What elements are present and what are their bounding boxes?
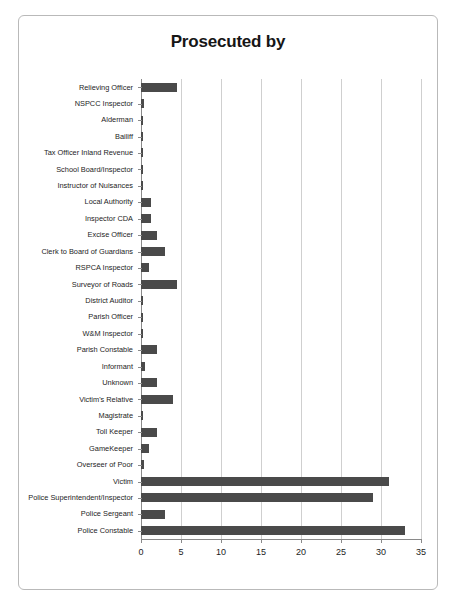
bar[interactable] [141,493,373,502]
x-tick-label: 15 [256,547,266,557]
bar[interactable] [141,444,149,453]
bar-row[interactable] [141,424,421,440]
bar-row[interactable] [141,342,421,358]
bar-row[interactable] [141,112,421,128]
bar[interactable] [141,280,177,289]
category-tick [138,169,142,170]
category-label: Surveyor of Roads [21,276,137,292]
category-label: Local Authority [21,194,137,210]
bar[interactable] [141,231,157,240]
x-tick-mark [181,539,182,543]
category-label: District Auditor [21,292,137,308]
bar[interactable] [141,395,173,404]
category-label: Instructor of Nuisances [21,178,137,194]
bar[interactable] [141,378,157,387]
category-label: Parish Officer [21,309,137,325]
category-label: Parish Constable [21,342,137,358]
bar-row[interactable] [141,490,421,506]
category-label: Victim's Relative [21,391,137,407]
bar-row[interactable] [141,128,421,144]
category-tick [138,383,142,384]
x-tick-label: 5 [178,547,183,557]
category-axis-labels: Relieving OfficerNSPCC InspectorAlderman… [21,79,137,539]
x-axis-tick-labels: 05101520253035 [141,547,422,561]
category-tick [138,284,142,285]
chart-frame: Prosecuted by Relieving OfficerNSPCC Ins… [18,15,438,590]
bar-row[interactable] [141,457,421,473]
x-tick-mark [381,539,382,543]
bar[interactable] [141,477,389,486]
bar-row[interactable] [141,309,421,325]
x-axis-line [141,539,422,540]
category-label: NSPCC Inspector [21,95,137,111]
bar-row[interactable] [141,227,421,243]
bar-row[interactable] [141,391,421,407]
bar-row[interactable] [141,145,421,161]
category-tick [138,87,142,88]
bar[interactable] [141,526,405,535]
bar-row[interactable] [141,358,421,374]
bar-row[interactable] [141,194,421,210]
category-tick [138,498,142,499]
category-label: GameKeeper [21,440,137,456]
category-tick [138,334,142,335]
category-label: Excise Officer [21,227,137,243]
x-tick-label: 10 [216,547,226,557]
bar-row[interactable] [141,243,421,259]
bar-row[interactable] [141,473,421,489]
plot-area [141,79,421,539]
bar-row[interactable] [141,375,421,391]
category-label: Police Sergeant [21,506,137,522]
bar-row[interactable] [141,440,421,456]
category-label: Tax Officer Inland Revenue [21,145,137,161]
category-tick [138,449,142,450]
category-tick [138,120,142,121]
bar-row[interactable] [141,292,421,308]
x-tick-mark [221,539,222,543]
bar-row[interactable] [141,506,421,522]
category-tick [138,482,142,483]
category-label: Magistrate [21,407,137,423]
category-label: Police Constable [21,522,137,538]
bar[interactable] [141,247,165,256]
bar[interactable] [141,263,149,272]
bar[interactable] [141,510,165,519]
bar-row[interactable] [141,522,421,538]
category-label: Relieving Officer [21,79,137,95]
category-tick [138,432,142,433]
category-tick [138,252,142,253]
bar[interactable] [141,428,157,437]
bar[interactable] [141,214,151,223]
bar-row[interactable] [141,161,421,177]
bar-row[interactable] [141,260,421,276]
bar-row[interactable] [141,178,421,194]
category-label: School Board/Inspector [21,161,137,177]
category-tick [138,186,142,187]
category-tick [138,202,142,203]
category-tick [138,219,142,220]
bar-row[interactable] [141,276,421,292]
gridline [421,79,422,539]
category-label: Unknown [21,375,137,391]
bar-row[interactable] [141,325,421,341]
bar-row[interactable] [141,95,421,111]
bar-row[interactable] [141,210,421,226]
bar[interactable] [141,345,157,354]
x-tick-label: 0 [138,547,143,557]
x-tick-mark [301,539,302,543]
x-tick-mark [261,539,262,543]
category-label: Police Superintendent/Inspector [21,490,137,506]
category-label: Inspector CDA [21,210,137,226]
category-tick [138,104,142,105]
category-tick [138,301,142,302]
category-tick [138,350,142,351]
bar[interactable] [141,83,177,92]
category-tick [138,399,142,400]
category-tick [138,531,142,532]
category-tick [138,367,142,368]
category-tick [138,268,142,269]
bar-row[interactable] [141,79,421,95]
category-label: Clerk to Board of Guardians [21,243,137,259]
bar[interactable] [141,198,151,207]
bar-row[interactable] [141,407,421,423]
